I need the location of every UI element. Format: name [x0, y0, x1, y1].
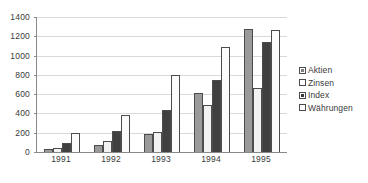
bar-index-1993 [162, 110, 171, 152]
bar-aktien-1991 [44, 149, 53, 152]
y-axis-tick-label: 1400 [10, 13, 30, 22]
bar-währungen-1991 [71, 133, 80, 152]
plot-area [36, 17, 287, 153]
legend-item-aktien[interactable]: Aktien [299, 66, 367, 75]
bar-zinsen-1991 [53, 148, 62, 152]
y-axis-tick-label: 800 [15, 71, 30, 80]
y-axis-tick-label: 1000 [10, 51, 30, 60]
bar-zinsen-1995 [253, 88, 262, 152]
x-axis-tick-label: 1994 [186, 155, 236, 164]
legend-swatch-icon [299, 67, 306, 74]
bar-zinsen-1992 [103, 141, 112, 152]
bar-währungen-1994 [221, 47, 230, 152]
y-axis-tick-label: 600 [15, 90, 30, 99]
bar-aktien-1994 [194, 93, 203, 152]
legend-label: Währungen [308, 104, 353, 113]
bar-group-1991 [37, 17, 87, 152]
legend-item-index[interactable]: Index [299, 91, 367, 100]
bar-index-1992 [112, 131, 121, 152]
y-axis-tickmark [34, 152, 37, 153]
y-axis-tick-label: 0 [25, 148, 30, 157]
bar-währungen-1992 [121, 115, 130, 152]
legend-swatch-icon [299, 104, 306, 111]
x-axis-labels: 19911992199319941995 [36, 155, 286, 164]
bar-währungen-1995 [271, 30, 280, 152]
bar-zinsen-1994 [203, 105, 212, 152]
legend: AktienZinsenIndexWährungen [299, 66, 367, 112]
bar-aktien-1995 [244, 29, 253, 152]
legend-label: Zinsen [308, 79, 334, 88]
bar-groups [37, 17, 287, 152]
legend-swatch-icon [299, 79, 306, 86]
bar-index-1994 [212, 80, 221, 152]
y-axis-tick-label: 1200 [10, 32, 30, 41]
bar-group-1995 [237, 17, 287, 152]
y-axis-tick-label: 200 [15, 128, 30, 137]
y-axis-labels: 0200400600800100012001400 [0, 0, 34, 183]
bar-aktien-1992 [94, 145, 103, 152]
x-axis-tick-label: 1991 [36, 155, 86, 164]
bar-zinsen-1993 [153, 132, 162, 152]
y-axis-tick-label: 400 [15, 109, 30, 118]
legend-label: Aktien [308, 66, 332, 75]
bar-group-1993 [137, 17, 187, 152]
bar-chart: 0200400600800100012001400 19911992199319… [0, 0, 368, 183]
bar-index-1991 [62, 143, 71, 152]
legend-item-währungen[interactable]: Währungen [299, 104, 367, 113]
bar-group-1994 [187, 17, 237, 152]
bar-group-1992 [87, 17, 137, 152]
bar-währungen-1993 [171, 75, 180, 152]
legend-label: Index [308, 91, 329, 100]
bar-index-1995 [262, 42, 271, 152]
bar-aktien-1993 [144, 134, 153, 152]
x-axis-tick-label: 1993 [136, 155, 186, 164]
x-axis-tick-label: 1992 [86, 155, 136, 164]
x-axis-tick-label: 1995 [236, 155, 286, 164]
legend-swatch-icon [299, 92, 306, 99]
legend-item-zinsen[interactable]: Zinsen [299, 79, 367, 88]
